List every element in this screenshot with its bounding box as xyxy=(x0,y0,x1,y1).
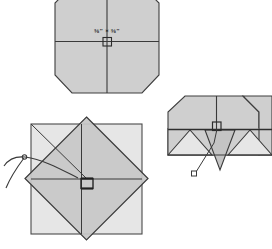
panel-square-with-diamond xyxy=(4,117,148,240)
figure-root: ⅜" × ⅜" xyxy=(0,0,272,249)
panel-octagon-top-view: ⅜" × ⅜" xyxy=(55,0,159,93)
panel-folded-flaps xyxy=(168,96,272,176)
dimension-label: ⅜" × ⅜" xyxy=(94,27,120,35)
dimension-label-group: ⅜" × ⅜" xyxy=(94,27,120,35)
small-square-callout xyxy=(192,171,197,176)
leader-arrow-shaft xyxy=(6,158,24,188)
diagram-canvas: ⅜" × ⅜" xyxy=(0,0,272,249)
